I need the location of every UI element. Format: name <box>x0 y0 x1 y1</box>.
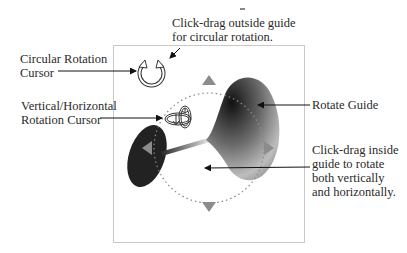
annotation-line: and horizontally. <box>312 185 398 199</box>
annotation-line: Cursor <box>20 66 107 80</box>
annotation-line: Rotation Cursor <box>21 113 117 127</box>
annotation-rotate-guide: Rotate Guide <box>312 98 378 112</box>
annotation-vh-cursor: Vertical/Horizontal Rotation Cursor <box>21 99 117 127</box>
annotation-inside-drag: Click-drag inside guide to rotate both v… <box>312 143 398 199</box>
annotation-circular-cursor: Circular Rotation Cursor <box>20 52 107 80</box>
annotation-line: guide to rotate <box>312 157 398 171</box>
annotation-line: Circular Rotation <box>20 52 107 66</box>
annotation-line: for circular rotation. <box>172 30 296 44</box>
annotation-circular-drag: Click-drag outside guide for circular ro… <box>172 16 296 44</box>
annotation-line: Rotate Guide <box>312 98 378 112</box>
annotation-line: Click-drag inside <box>312 143 398 157</box>
annotation-line: Vertical/Horizontal <box>21 99 117 113</box>
annotation-line: Click-drag outside guide <box>172 16 296 30</box>
annotation-line: both vertically <box>312 171 398 185</box>
